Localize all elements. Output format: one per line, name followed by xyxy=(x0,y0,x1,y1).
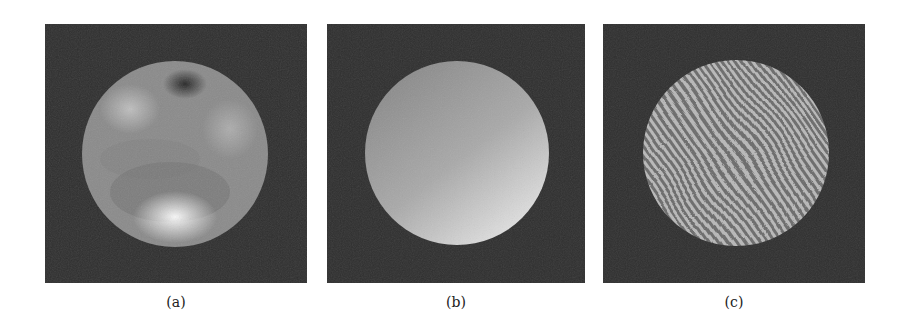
panel-b-image xyxy=(327,24,585,283)
panel-b-caption: (b) xyxy=(426,294,486,310)
panel-c-image xyxy=(603,24,865,283)
panel-a-image xyxy=(45,24,307,283)
panel-c-caption: (c) xyxy=(704,294,764,310)
panel-a-caption: (a) xyxy=(146,294,206,310)
